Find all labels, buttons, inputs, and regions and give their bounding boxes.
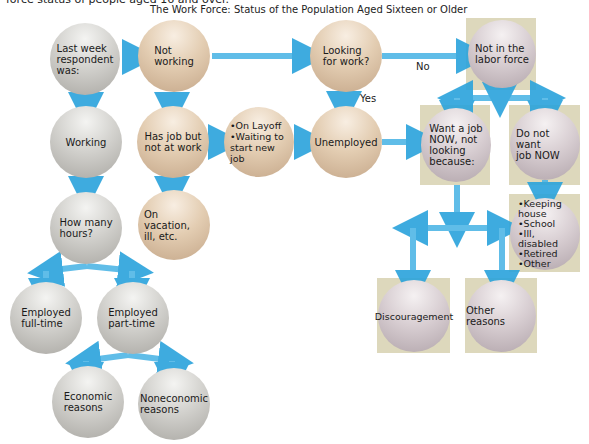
node-not-in-labor-force: Not in the labor force: [468, 20, 536, 88]
node-last-week: Last week respondent was:: [50, 23, 120, 95]
node-noneconomic-reasons: Noneconomic reasons: [138, 368, 210, 440]
node-discouragement: Discouragement: [378, 280, 450, 352]
edge-label-yes: Yes: [360, 93, 376, 104]
node-employed-full-time: Employed full-time: [10, 282, 82, 354]
node-how-many-hours: How many hours?: [50, 192, 122, 264]
node-economic-reasons: Economic reasons: [52, 366, 124, 438]
node-on-vacation: On vacation, ill, etc.: [138, 190, 210, 260]
node-unemployed: Unemployed: [310, 106, 382, 178]
node-want-job-now: Want a job NOW, not looking because:: [421, 108, 491, 182]
node-layoff: •On Layoff •Waiting to start new job: [224, 107, 294, 177]
edge-label-no: No: [416, 61, 430, 72]
node-not-working: Not working: [138, 20, 210, 92]
node-other-reasons: Other reasons: [466, 280, 536, 352]
node-do-not-want-job: Do not want job NOW: [510, 108, 580, 180]
node-looking-for-work: Looking for work?: [310, 20, 382, 92]
node-employed-part-time: Employed part-time: [97, 282, 169, 354]
node-reasons-list: •Keeping house •School •Ill, disabled •R…: [510, 198, 580, 270]
node-working: Working: [50, 106, 122, 178]
node-has-job-not-at-work: Has job but not at work: [137, 106, 209, 178]
